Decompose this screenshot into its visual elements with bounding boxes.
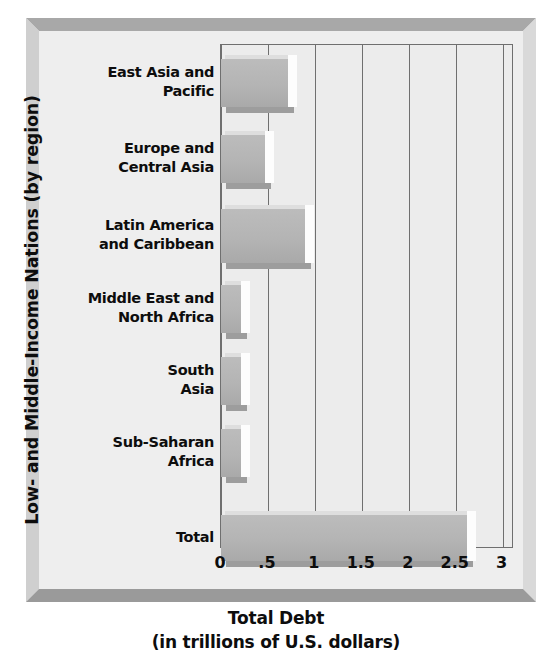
bar-bottom-face [226, 333, 247, 339]
x-tick-0: 0 [214, 553, 225, 572]
bar-highlight-face [305, 205, 314, 263]
bar-row [221, 429, 512, 477]
x-tick-2: 2 [402, 553, 413, 572]
category-label-line: Asia [14, 380, 214, 399]
category-label-line: Middle East and [14, 289, 214, 308]
plot-area [220, 44, 513, 548]
category-label-line: Sub-Saharan [14, 433, 214, 452]
x-axis-title-line2: (in trillions of U.S. dollars) [0, 630, 552, 654]
bar-highlight-face [288, 55, 297, 107]
x-tick-.5: .5 [258, 553, 275, 572]
bar-row [221, 357, 512, 405]
category-label-line: Central Asia [14, 158, 214, 177]
bar-6[interactable] [221, 429, 242, 477]
bar-bottom-face [226, 107, 294, 113]
x-tick-2.5: 2.5 [441, 553, 469, 572]
category-label-3: Latin Americaand Caribbean [14, 216, 214, 254]
category-label-7: Total [14, 528, 214, 547]
x-axis-title-line1: Total Debt [0, 606, 552, 630]
frame-bevel-right [523, 18, 536, 602]
x-tick-1: 1 [308, 553, 319, 572]
bar-2[interactable] [221, 135, 266, 183]
category-label-line: East Asia and [14, 63, 214, 82]
bar-highlight-face [241, 281, 250, 333]
bar-5[interactable] [221, 357, 242, 405]
bar-row [221, 285, 512, 333]
bar-row [221, 135, 512, 183]
bar-1[interactable] [221, 59, 289, 107]
category-label-list: East Asia andPacificEurope andCentral As… [8, 44, 214, 548]
category-label-line: Europe and [14, 139, 214, 158]
category-label-4: Middle East andNorth Africa [14, 289, 214, 327]
x-tick-1.5: 1.5 [347, 553, 375, 572]
frame-bevel-top [26, 18, 536, 31]
bar-bottom-face [226, 183, 271, 189]
x-axis-title: Total Debt (in trillions of U.S. dollars… [0, 606, 552, 654]
bar-bottom-face [226, 263, 311, 269]
category-label-6: Sub-SaharanAfrica [14, 433, 214, 471]
x-tick-3: 3 [496, 553, 507, 572]
bar-bottom-face [226, 477, 247, 483]
frame-bevel-bottom [26, 589, 536, 602]
x-axis-tick-labels: 0.511.522.53 [220, 553, 513, 579]
bar-highlight-face [241, 353, 250, 405]
bar-highlight-face [265, 131, 274, 183]
category-label-2: Europe andCentral Asia [14, 139, 214, 177]
category-label-line: and Caribbean [14, 235, 214, 254]
category-label-5: SouthAsia [14, 361, 214, 399]
category-label-line: North Africa [14, 308, 214, 327]
category-label-line: South [14, 361, 214, 380]
category-label-line: Africa [14, 452, 214, 471]
bar-highlight-face [241, 425, 250, 477]
category-label-line: Total [14, 528, 214, 547]
bar-4[interactable] [221, 285, 242, 333]
chart-figure: Low- and Middle-Income Nations (by regio… [0, 0, 552, 654]
category-label-line: Pacific [14, 82, 214, 101]
category-label-1: East Asia andPacific [14, 63, 214, 101]
bar-bottom-face [226, 405, 247, 411]
category-label-line: Latin America [14, 216, 214, 235]
bar-row [221, 209, 512, 263]
bar-3[interactable] [221, 209, 306, 263]
bar-row [221, 59, 512, 107]
